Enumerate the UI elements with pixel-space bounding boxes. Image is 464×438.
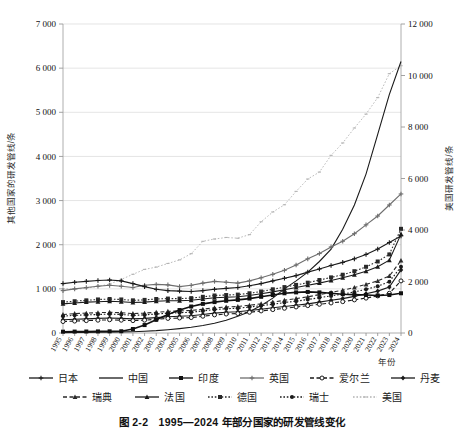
legend-label: 瑞士 [309,389,329,404]
legend-item-丹麦[interactable]: 丹麦 [390,370,440,385]
legend-label: 丹麦 [420,370,440,385]
y-right-tick-label: 8 000 [408,122,429,132]
legend-item-印度[interactable]: 印度 [168,370,218,385]
y-right-axis-title: 美国研发管线/条 [444,145,454,210]
figure-caption: 图 2-2 1995—2024 年部分国家的研发管线变化 [0,414,464,429]
legend-swatch-美国 [352,392,378,402]
figure-container: 01 0002 0003 0004 0005 0006 0007 00002 0… [0,0,464,438]
series-日本 [61,234,404,294]
legend-swatch-法国 [134,392,160,402]
y-left-tick-label: 4 000 [36,152,57,162]
y-left-tick-label: 3 000 [36,196,57,206]
legend-label: 中国 [128,370,148,385]
legend-swatch-丹麦 [390,373,416,383]
series-瑞典 [61,258,404,316]
legend-swatch-爱尔兰 [309,373,335,383]
y-right-tick-label: 10 000 [408,71,433,81]
legend-swatch-日本 [28,373,54,383]
line-chart: 01 0002 0003 0004 0005 0006 0007 00002 0… [0,0,464,368]
legend-label: 英国 [269,370,289,385]
y-right-tick-label: 12 000 [408,19,433,29]
y-left-tick-label: 2 000 [36,240,57,250]
legend-swatch-中国 [98,373,124,383]
legend-swatch-印度 [168,373,194,383]
legend-item-法国[interactable]: 法国 [134,389,184,404]
legend-row-2: 瑞典法国德国瑞士美国 [0,387,464,406]
legend-swatch-英国 [239,373,265,383]
y-left-tick-label: 6 000 [36,63,57,73]
legend-item-美国[interactable]: 美国 [352,389,402,404]
series-瑞士 [61,265,403,318]
legend-label: 爱尔兰 [339,370,370,385]
legend-swatch-瑞士 [279,392,305,402]
legend-label: 瑞典 [92,389,112,404]
legend-item-爱尔兰[interactable]: 爱尔兰 [309,370,370,385]
y-right-tick-label: 6 000 [408,174,429,184]
legend-label: 日本 [58,370,78,385]
series-美国 [61,66,402,290]
y-left-tick-label: 7 000 [36,19,57,29]
legend-label: 美国 [382,389,402,404]
legend-label: 德国 [237,389,257,404]
x-tick-label: 2024 [386,335,401,353]
legend-label: 法国 [164,389,184,404]
y-right-tick-label: 4 000 [408,225,429,235]
legend-label: 印度 [198,370,218,385]
y-left-tick-label: 5 000 [36,107,57,117]
legend-swatch-瑞典 [62,392,88,402]
legend-item-日本[interactable]: 日本 [28,370,78,385]
legend-item-中国[interactable]: 中国 [98,370,148,385]
series-英国 [61,192,404,293]
y-left-tick-label: 1 000 [36,284,57,294]
y-right-tick-label: 0 [408,328,413,338]
legend-swatch-德国 [207,392,233,402]
legend-item-瑞士[interactable]: 瑞士 [279,389,329,404]
legend-item-德国[interactable]: 德国 [207,389,257,404]
chart-legend: 日本中国印度英国爱尔兰丹麦 瑞典法国德国瑞士美国 [0,368,464,406]
y-left-axis-title: 其他国家的研发管线/条 [6,132,16,224]
legend-row-1: 日本中国印度英国爱尔兰丹麦 [0,368,464,387]
y-right-tick-label: 2 000 [408,277,429,287]
series-中国 [63,62,401,333]
legend-item-瑞典[interactable]: 瑞典 [62,389,112,404]
x-axis-title: 年份 [378,357,396,367]
legend-item-英国[interactable]: 英国 [239,370,289,385]
